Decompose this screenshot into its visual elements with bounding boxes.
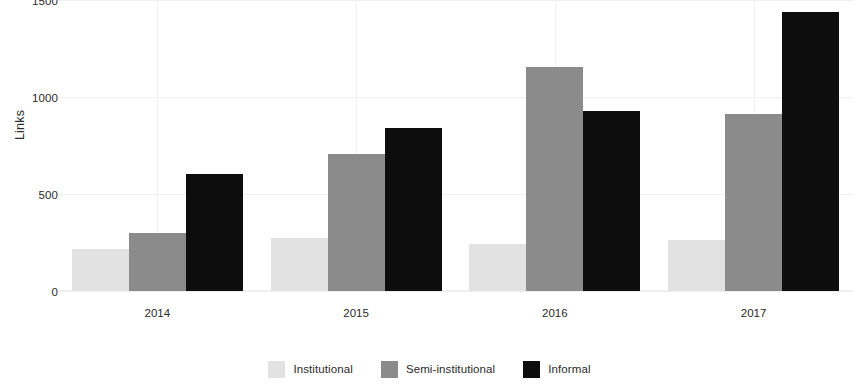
x-tick-label: 2015 [343,307,369,319]
x-tick-label: 2014 [144,307,170,319]
legend-swatch-icon [381,361,398,378]
bar-2015-institutional [271,238,328,291]
y-tick-label: 0 [12,286,58,298]
legend-item-institutional: Institutional [268,361,352,378]
legend-swatch-icon [523,361,540,378]
legend-label: Informal [548,363,590,375]
bar-2016-institutional [469,244,526,291]
bar-2017-institutional [668,240,725,291]
chart-legend: InstitutionalSemi-institutionalInformal [0,358,859,380]
legend-label: Semi-institutional [406,363,495,375]
bar-2014-institutional [72,249,129,291]
plot-area [58,0,853,291]
bar-2016-informal [583,111,640,291]
x-tick-label: 2016 [542,307,568,319]
y-gridline [58,97,853,98]
bar-2014-informal [186,174,243,291]
y-gridline [58,0,853,1]
y-tick-label: 1500 [12,0,58,7]
y-gridline [58,291,853,292]
bar-2017-informal [782,12,839,291]
y-tick-label: 500 [12,189,58,201]
x-axis: 2014201520162017 [58,298,853,324]
bar-2015-semi-institutional [328,154,385,291]
bar-2016-semi-institutional [526,67,583,291]
bar-2017-semi-institutional [725,114,782,291]
x-tick-label: 2017 [741,307,767,319]
y-tick-label: 1000 [12,92,58,104]
legend-item-semi-institutional: Semi-institutional [381,361,495,378]
legend-label: Institutional [293,363,352,375]
y-axis: Links 050010001500 [0,0,58,300]
bar-chart: Links 050010001500 2014201520162017 Inst… [0,0,859,384]
legend-swatch-icon [268,361,285,378]
legend-item-informal: Informal [523,361,590,378]
bar-2014-semi-institutional [129,233,186,291]
bar-2015-informal [385,128,442,291]
